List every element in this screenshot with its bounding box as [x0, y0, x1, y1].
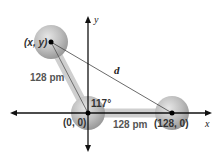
y-axis-label: y: [94, 14, 98, 25]
bond-angle-label: 117°: [91, 98, 111, 109]
diagram: y x (x, y) (0, 0) (128, 0) 128 pm 128 pm…: [0, 0, 220, 155]
bond-left-length: 128 pm: [30, 72, 64, 83]
distance-label: d: [114, 64, 120, 76]
origin-point-label: (0, 0): [63, 117, 86, 128]
top-point-label: (x, y): [24, 37, 47, 48]
right-point-label: (128, 0): [154, 118, 188, 129]
bond-bottom-length: 128 pm: [113, 119, 147, 130]
x-axis-label: x: [205, 118, 209, 129]
